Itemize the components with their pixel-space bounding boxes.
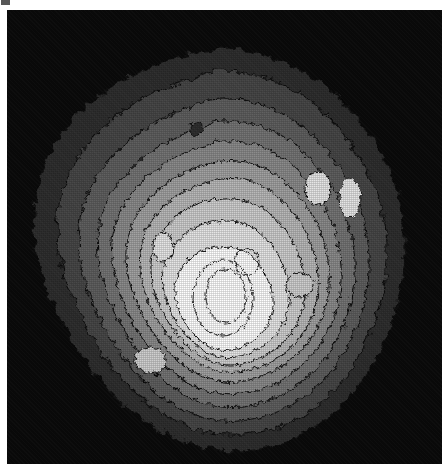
- contour-island-upper-right-b: [339, 178, 361, 218]
- contour-plot-svg: [7, 10, 442, 464]
- figure-canvas: [0, 0, 444, 464]
- contour-island-mid-right: [286, 273, 314, 297]
- contour-island-left: [153, 232, 173, 262]
- contour-island-upper-right-a: [305, 171, 331, 205]
- contour-island-low: [134, 347, 166, 373]
- contour-island-upper-notch: [190, 121, 202, 135]
- contour-plot: [7, 10, 442, 464]
- window-chrome-fragment-icon: [1, 0, 10, 5]
